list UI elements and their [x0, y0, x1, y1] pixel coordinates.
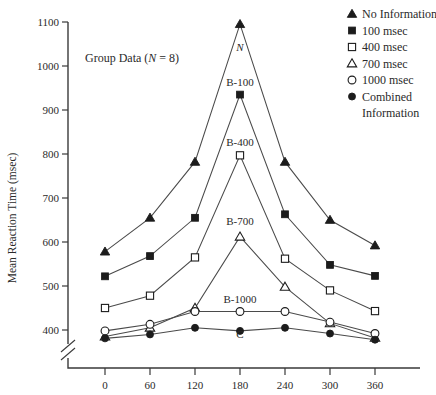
data-point: [326, 287, 333, 294]
panel-title: Group Data (N = 8): [85, 51, 179, 65]
data-point: [237, 91, 244, 98]
legend-item-1[interactable]: 100 msec: [349, 24, 408, 38]
legend-marker: [349, 93, 356, 100]
data-point: [372, 336, 379, 343]
legend-label: Information: [362, 106, 419, 120]
y-axis-title: Mean Reaction Time (msec): [6, 153, 19, 284]
legend-item-0[interactable]: No Information: [347, 7, 436, 21]
legend-marker: [349, 27, 356, 34]
legend-item-5[interactable]: Combined: [349, 90, 413, 104]
x-tick-label: 180: [232, 379, 249, 391]
data-point: [192, 214, 199, 221]
legend-marker: [347, 59, 356, 67]
data-point: [372, 272, 379, 279]
x-tick-label: 300: [322, 379, 339, 391]
legend-item-4[interactable]: 1000 msec: [348, 73, 414, 87]
curve-label: B-700: [226, 215, 254, 227]
data-point: [102, 273, 109, 280]
data-point: [191, 254, 198, 261]
data-point: [282, 324, 289, 331]
legend-item-3[interactable]: 700 msec: [347, 57, 407, 71]
legend-label: 100 msec: [362, 24, 408, 38]
x-tick-label: 360: [367, 379, 384, 391]
legend-item-2[interactable]: 400 msec: [348, 40, 407, 54]
panel-title-text: Group Data (N = 8): [85, 51, 179, 65]
data-point: [370, 241, 379, 249]
y-tick-label: 1100: [37, 16, 59, 28]
data-point: [147, 331, 154, 338]
data-point: [371, 307, 378, 314]
data-point: [236, 152, 243, 159]
y-tick-label: 500: [43, 280, 60, 292]
x-tick-label: 0: [102, 379, 108, 391]
data-point: [282, 211, 289, 218]
data-point: [326, 318, 334, 326]
y-tick-label: 900: [43, 104, 60, 116]
y-axis-title-text: Mean Reaction Time (msec): [6, 153, 19, 284]
legend-item-6[interactable]: Information: [362, 106, 419, 120]
x-tick-label: 120: [187, 379, 204, 391]
data-point: [101, 304, 108, 311]
data-point: [190, 157, 199, 165]
data-point: [281, 255, 288, 262]
data-point: [146, 292, 153, 299]
data-point: [235, 20, 244, 28]
data-point: [280, 157, 289, 165]
data-point: [327, 330, 334, 337]
reaction-time-line-chart: 4005006007008009001000110006012018024030…: [0, 0, 436, 395]
curve-label-layer: NB-100B-400B-700B-1000C: [224, 41, 258, 341]
legend-label: 1000 msec: [362, 73, 414, 87]
y-tick-label: 700: [43, 192, 60, 204]
y-tick-label: 800: [43, 148, 60, 160]
legend-marker: [348, 43, 355, 50]
legend-marker: [348, 76, 356, 84]
chart-figure: 4005006007008009001000110006012018024030…: [0, 0, 436, 395]
y-tick-label: 1000: [37, 60, 60, 72]
curve-label: B-100: [226, 76, 254, 88]
legend-marker: [347, 9, 356, 17]
data-point: [100, 247, 109, 255]
series-1: [102, 91, 379, 280]
curve-label: B-1000: [224, 293, 258, 305]
data-point: [192, 324, 199, 331]
curve-label: N: [235, 41, 244, 53]
data-point: [102, 335, 109, 342]
data-point: [236, 308, 244, 316]
y-tick-label: 400: [43, 324, 60, 336]
data-point: [235, 232, 244, 240]
legend-label: 700 msec: [362, 57, 408, 71]
x-tick-label: 240: [277, 379, 294, 391]
legend-label: No Information: [362, 7, 436, 21]
data-point: [281, 308, 289, 316]
legend: No Information100 msec400 msec700 msec10…: [347, 7, 436, 120]
data-point: [147, 253, 154, 260]
data-point: [191, 308, 199, 316]
data-point: [327, 261, 334, 268]
x-tick-label: 60: [145, 379, 157, 391]
curve-label: B-400: [226, 136, 254, 148]
legend-label: 400 msec: [362, 40, 408, 54]
legend-label: Combined: [362, 90, 412, 104]
series-line: [105, 95, 375, 277]
y-tick-label: 600: [43, 236, 60, 248]
data-point: [101, 327, 109, 335]
curve-label: C: [236, 328, 243, 340]
data-point: [146, 320, 154, 328]
